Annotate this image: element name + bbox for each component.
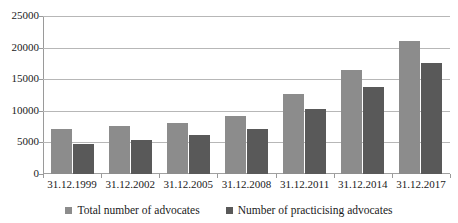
x-tick-mark — [276, 174, 277, 178]
y-tick-label: 20000 — [0, 42, 39, 53]
legend-item[interactable]: Total number of advocates — [65, 204, 199, 217]
bar-group — [283, 16, 326, 174]
y-tick-label: 0 — [0, 168, 39, 179]
x-tick-mark — [43, 174, 44, 178]
x-tick-label: 31.12.2002 — [101, 178, 159, 191]
bar — [399, 41, 420, 174]
y-tick-label: 25000 — [0, 10, 39, 21]
y-tick-mark — [39, 111, 43, 112]
y-tick-label: 15000 — [0, 73, 39, 84]
plot-area — [43, 16, 450, 174]
x-tick-mark — [450, 174, 451, 178]
bar — [225, 116, 246, 174]
bar — [247, 129, 268, 175]
legend-item-label: Number of practicising advocates — [238, 204, 393, 217]
legend-item-label: Total number of advocates — [77, 204, 199, 217]
x-tick-label: 31.12.2014 — [334, 178, 392, 191]
y-tick-mark — [39, 16, 43, 17]
bar-chart: 0500010000150002000025000 31.12.199931.1… — [0, 0, 458, 223]
x-tick-mark — [392, 174, 393, 178]
x-tick-label: 31.12.2008 — [217, 178, 275, 191]
x-tick-mark — [334, 174, 335, 178]
x-tick-mark — [159, 174, 160, 178]
y-tick-mark — [39, 79, 43, 80]
bar — [167, 123, 188, 174]
bar-group — [341, 16, 384, 174]
x-tick-label: 31.12.2005 — [159, 178, 217, 191]
x-tick-label: 31.12.2011 — [276, 178, 334, 191]
bar — [131, 140, 152, 174]
y-tick-label: 5000 — [0, 136, 39, 147]
bar-group — [167, 16, 210, 174]
bar — [341, 70, 362, 174]
x-axis-labels: 31.12.199931.12.200231.12.200531.12.2008… — [43, 178, 450, 194]
bar-group — [109, 16, 152, 174]
bar-group — [225, 16, 268, 174]
legend-item[interactable]: Number of practicising advocates — [226, 204, 393, 217]
y-axis-labels: 0500010000150002000025000 — [0, 0, 39, 223]
bar — [305, 109, 326, 174]
x-tick-mark — [101, 174, 102, 178]
bar-group — [399, 16, 442, 174]
bar — [283, 94, 304, 174]
y-tick-mark — [39, 48, 43, 49]
bar — [189, 135, 210, 174]
x-tick-mark — [217, 174, 218, 178]
bar — [51, 129, 72, 174]
y-tick-label: 10000 — [0, 105, 39, 116]
bar — [421, 63, 442, 174]
bar — [363, 87, 384, 174]
bar — [109, 126, 130, 174]
x-tick-label: 31.12.1999 — [43, 178, 101, 191]
legend-square-marker — [226, 207, 233, 214]
x-tick-label: 31.12.2017 — [392, 178, 450, 191]
chart-legend: Total number of advocatesNumber of pract… — [0, 204, 458, 217]
y-tick-mark — [39, 142, 43, 143]
legend-square-marker — [65, 207, 72, 214]
bar — [73, 144, 94, 174]
bar-group — [51, 16, 94, 174]
